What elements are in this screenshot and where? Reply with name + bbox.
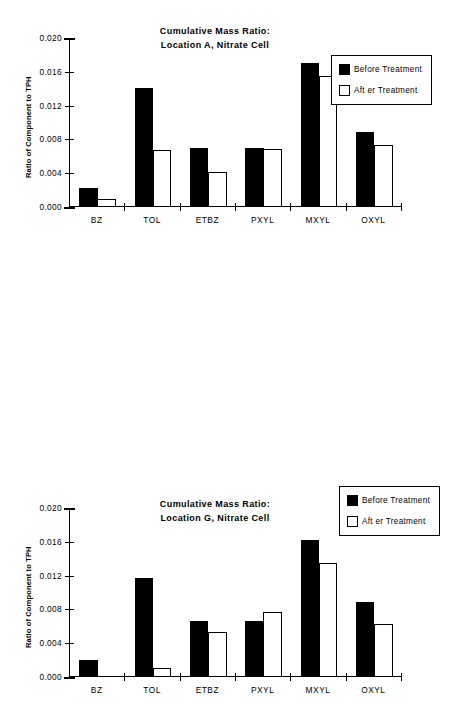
x-axis-category-label: ETBZ (196, 215, 219, 225)
legend-swatch-before-icon (339, 64, 350, 75)
y-axis-tick-label: 0.008 (39, 134, 62, 144)
x-axis-category-label: OXYL (361, 215, 385, 225)
bar-after-oxyl (374, 145, 393, 207)
y-axis-tick (65, 173, 74, 174)
bar-before-pxyl (245, 148, 264, 207)
y-axis-tick-label: 0.004 (39, 168, 62, 178)
x-axis-tick (346, 203, 347, 211)
bar-after-etbz (208, 172, 227, 207)
chart-panel-f: Cumulative Mass Ratio: Location F, No-Fl… (0, 468, 459, 702)
bar-before-etbz (190, 148, 209, 207)
y-axis-tick (65, 72, 74, 73)
legend-a: Before Treatment Aft er Treatment (331, 55, 432, 105)
y-axis-tick-label: 0.012 (39, 101, 62, 111)
chart-panel-g: Cumulative Mass Ratio: Location G, Nitra… (0, 234, 459, 468)
x-axis-category-label: BZ (91, 215, 103, 225)
bar-before-mxyl (301, 63, 320, 207)
bar-after-pxyl (263, 149, 282, 207)
y-axis-line (69, 38, 70, 207)
chart-panel-a: Cumulative Mass Ratio: Location A, Nitra… (0, 0, 459, 234)
x-axis-tick (401, 203, 402, 211)
y-axis-tick-label: 0.016 (39, 67, 62, 77)
y-axis-tick (64, 38, 75, 40)
x-axis-category-label: PXYL (251, 215, 274, 225)
legend-label-before: Before Treatment (354, 65, 422, 74)
y-axis-tick-label: 0.000 (39, 202, 62, 212)
x-axis-tick (180, 203, 181, 211)
legend-label-after: Aft er Treatment (354, 86, 418, 95)
bar-before-oxyl (356, 132, 375, 208)
x-axis-tick (124, 203, 125, 211)
figure-page: Cumulative Mass Ratio: Location A, Nitra… (0, 0, 459, 702)
bar-after-tol (153, 150, 172, 207)
x-axis-tick (290, 203, 291, 211)
bar-before-bz (79, 188, 98, 207)
legend-swatch-after-icon (339, 85, 350, 96)
bar-before-tol (135, 88, 154, 207)
legend-row-before: Before Treatment (339, 62, 422, 77)
y-axis-title-a: Ratio of Component to TPH (24, 76, 33, 178)
y-axis-tick-label: 0.020 (39, 33, 62, 43)
x-axis-category-label: TOL (143, 215, 161, 225)
x-axis-category-label: MXYL (306, 215, 331, 225)
legend-row-after: Aft er Treatment (339, 83, 422, 98)
y-axis-tick (65, 139, 74, 140)
y-axis-tick (65, 106, 74, 107)
chart-title-line1: Cumulative Mass Ratio: (120, 24, 310, 38)
bar-after-bz (97, 199, 116, 207)
y-axis-tick (64, 207, 75, 209)
x-axis-tick (235, 203, 236, 211)
